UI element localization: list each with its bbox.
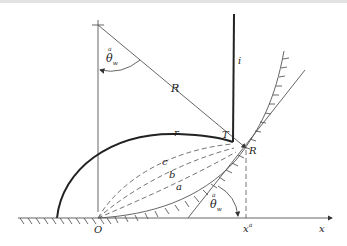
line-i-label: i [238,55,241,66]
cropped-caption-strip [0,0,347,3]
center-angle-sup: a [108,45,112,52]
center-angle-label: θw [106,52,119,66]
x-axis-label: x [319,223,325,234]
curve-r-label: r [174,127,180,138]
line-i [233,14,234,142]
point-R-label: R [248,145,257,156]
curve-r [57,134,233,218]
point-T-label: T [222,129,230,140]
wall-angle-sup: a [212,191,216,198]
radius-label: R [170,82,179,95]
origin-label: O [94,224,102,235]
curve-b-label: b [169,169,175,180]
curved-wall-hatching [115,58,289,223]
diagram-canvas: θw a R i r T c b a [0,0,347,246]
curve-c-label: c [162,156,168,167]
curve-a-label: a [176,181,182,192]
xa-label: xa [243,221,253,234]
tangent-line [188,70,305,218]
wall-angle-label: θw [210,198,223,212]
